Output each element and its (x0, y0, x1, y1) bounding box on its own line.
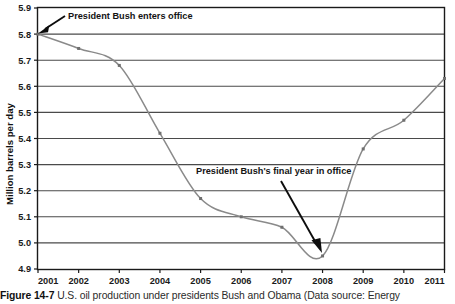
y-axis-tick-label: 5.5 (18, 108, 31, 118)
annotation-bush-enters-office-label: President Bush enters office (68, 11, 193, 21)
x-axis-tick-label: 2010 (394, 276, 414, 286)
x-axis-ticks: 2001200220032004200520062007200820092010… (38, 269, 445, 286)
y-axis-tick-label: 5.2 (18, 186, 31, 196)
figure-caption: Figure 14-7 U.S. oil production under pr… (0, 290, 455, 304)
annotation-bush-enters-office: President Bush enters office (38, 11, 193, 34)
x-axis-tick-label: 2008 (312, 276, 332, 286)
x-axis-tick-label: 2004 (150, 276, 171, 286)
x-axis-tick-label: 2007 (272, 276, 292, 286)
y-axis-tick-label: 5.6 (18, 82, 31, 92)
y-axis-tick-label: 5.1 (18, 212, 31, 222)
annotation-bush-final-year-arrow-head (312, 238, 323, 253)
y-axis-tick-label: 4.9 (18, 264, 31, 274)
data-point-marker (362, 147, 365, 150)
figure-caption-label: Figure 14-7 (0, 290, 54, 301)
x-axis-tick-label: 2005 (190, 276, 210, 286)
data-point-markers (37, 33, 447, 258)
y-axis-tick-label: 5.9 (18, 3, 31, 13)
data-point-marker (158, 132, 161, 135)
figure-container: Million barrels per day 5.95.85.75.65.55… (0, 0, 455, 304)
data-point-marker (240, 215, 243, 218)
line-chart: Million barrels per day 5.95.85.75.65.55… (0, 0, 455, 288)
gridlines (38, 34, 445, 243)
annotation-bush-final-year: President Bush's final year in office (196, 166, 351, 253)
data-point-marker (118, 64, 121, 67)
y-axis-ticks: 5.95.85.75.65.55.45.35.25.15.04.9 (18, 3, 38, 274)
y-axis-tick-label: 5.3 (18, 160, 31, 170)
data-point-marker (280, 226, 283, 229)
annotation-bush-final-year-label: President Bush's final year in office (196, 166, 351, 176)
x-axis-tick-label: 2009 (353, 276, 373, 286)
x-axis-tick-label: 2006 (231, 276, 251, 286)
x-axis-tick-label: 2011 (425, 276, 445, 286)
data-point-marker (77, 47, 80, 50)
x-axis-tick-label: 2003 (109, 276, 129, 286)
data-point-marker (321, 254, 324, 257)
y-axis-tick-label: 5.8 (18, 30, 31, 40)
y-axis-tick-label: 5.4 (18, 134, 32, 144)
data-series-line (38, 34, 445, 259)
y-axis-tick-label: 5.0 (18, 238, 31, 248)
x-axis-tick-label: 2002 (68, 276, 88, 286)
data-point-marker (199, 197, 202, 200)
figure-caption-text: U.S. oil production under presidents Bus… (57, 290, 400, 301)
data-point-marker (402, 119, 405, 122)
x-axis-tick-label: 2001 (38, 276, 58, 286)
y-axis-title: Million barrels per day (4, 103, 15, 205)
data-point-marker (443, 77, 446, 80)
y-axis-title-text: Million barrels per day (4, 103, 15, 205)
chart-canvas: Million barrels per day 5.95.85.75.65.55… (0, 0, 455, 288)
y-axis-tick-label: 5.7 (18, 56, 31, 66)
